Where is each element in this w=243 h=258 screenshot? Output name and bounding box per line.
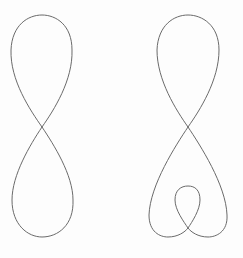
figure-eight-with-inner-loop-curve xyxy=(149,15,227,237)
curves-svg xyxy=(0,0,243,258)
diagram-canvas xyxy=(0,0,243,258)
figure-eight-curve xyxy=(11,15,73,237)
